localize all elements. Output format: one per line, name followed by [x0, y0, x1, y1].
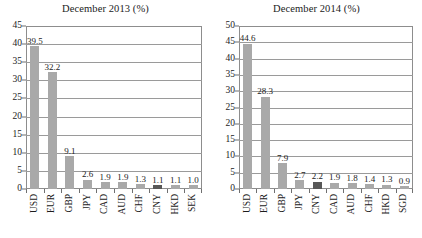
x-label-slot: SEK [184, 194, 202, 238]
x-axis-tick-mark [309, 189, 310, 193]
x-axis-tick-mark [274, 189, 275, 193]
x-axis-label-eur: EUR [48, 194, 58, 213]
x-tick-slot [149, 189, 167, 193]
x-label-slot: EUR [44, 194, 62, 238]
bar-chf: 1.3 [136, 184, 145, 189]
bar-group: 1.0 [184, 26, 202, 189]
x-axis-tick-mark [343, 189, 344, 193]
bar-aud: 1.8 [348, 183, 357, 189]
bar-usd: 44.6 [243, 44, 252, 189]
x-axis-tick-mark [96, 189, 97, 193]
x-axis-label-chf: CHF [136, 194, 146, 212]
x-axis-label-hkd: HKD [171, 194, 181, 215]
x-tick-slot [44, 189, 62, 193]
x-tick-slot [96, 189, 114, 193]
x-axis-tick-mark [256, 189, 257, 193]
y-axis-tick-label: 35 [13, 57, 23, 67]
x-label-slot: EUR [256, 194, 273, 238]
x-axis-tick-mark [167, 189, 168, 193]
x-label-slot: JPY [79, 194, 97, 238]
x-axis-label-usd: USD [243, 194, 253, 213]
bar-chf: 1.4 [365, 184, 374, 189]
y-axis-tick-label: 45 [226, 38, 236, 48]
x-axis-labels-right: USDEURGBPJPYCNYCADAUDCHFHKDSGD [239, 194, 413, 238]
x-tick-slot [26, 189, 44, 193]
x-axis-tick-mark [239, 189, 240, 193]
x-label-slot: HKD [167, 194, 185, 238]
x-label-slot: HKD [378, 194, 395, 238]
bar-value-label: 1.8 [347, 174, 358, 183]
bar-cad: 1.9 [101, 182, 110, 189]
bar-cny: 1.1 [153, 185, 162, 189]
y-axis-tick-label: 10 [13, 148, 23, 158]
x-axis-tick-mark [396, 189, 397, 193]
x-label-slot: AUD [114, 194, 132, 238]
bar-value-label: 1.9 [100, 173, 111, 182]
chart-panel-december-2013: December 2013 (%) 051015202530354045 39.… [0, 0, 211, 238]
x-label-slot: USD [26, 194, 44, 238]
x-axis-label-jpy: JPY [83, 194, 93, 210]
chart-panel-december-2014: December 2014 (%) 05101520253035404550 4… [211, 0, 422, 238]
x-label-slot: GBP [61, 194, 79, 238]
x-label-slot: CHF [132, 194, 150, 238]
x-axis-label-aud: AUD [118, 194, 128, 215]
bar-hkd: 1.3 [382, 185, 391, 189]
bar-value-label: 44.6 [240, 34, 256, 43]
bar-cad: 1.9 [330, 183, 339, 189]
y-axis-tick-label: 40 [226, 54, 236, 64]
bar-group: 28.3 [256, 26, 273, 189]
bar-value-label: 9.1 [64, 147, 75, 156]
y-axis-tick-label: 30 [13, 76, 23, 86]
x-axis-tick-mark [184, 189, 185, 193]
bar-series-right: 44.628.37.92.72.21.91.81.41.30.9 [239, 26, 413, 189]
x-axis-label-chf: CHF [365, 194, 375, 212]
x-axis-tick-mark [201, 189, 202, 193]
x-tick-slot [167, 189, 185, 193]
x-axis-label-cny: CNY [313, 194, 323, 214]
bar-group: 1.3 [132, 26, 150, 189]
bar-group: 2.2 [309, 26, 326, 189]
x-axis-label-eur: EUR [260, 194, 270, 213]
y-axis-tick-label: 45 [13, 21, 23, 31]
x-tick-slot [79, 189, 97, 193]
bar-group: 1.8 [343, 26, 360, 189]
x-label-slot: CHF [361, 194, 378, 238]
bar-gbp: 9.1 [65, 156, 74, 189]
x-axis-tick-mark [114, 189, 115, 193]
x-tick-slot [326, 189, 343, 193]
bar-group: 0.9 [396, 26, 413, 189]
bar-sgd: 0.9 [400, 186, 409, 189]
y-axis-tick-label: 15 [13, 130, 23, 140]
bar-group: 44.6 [239, 26, 256, 189]
x-tick-slot [239, 189, 256, 193]
x-label-slot: AUD [343, 194, 360, 238]
bar-value-label: 2.7 [294, 171, 305, 180]
bar-group: 39.5 [26, 26, 44, 189]
x-axis-labels-left: USDEURGBPJPYCADAUDCHFCNYHKDSEK [26, 194, 202, 238]
x-axis-tick-mark [149, 189, 150, 193]
y-axis-tick-label: 25 [13, 94, 23, 104]
bar-group: 1.9 [114, 26, 132, 189]
x-axis-tick-mark [61, 189, 62, 193]
x-axis-label-cad: CAD [330, 194, 340, 214]
bar-value-label: 1.9 [329, 173, 340, 182]
bar-group: 2.7 [291, 26, 308, 189]
bar-sek: 1.0 [189, 185, 198, 189]
x-label-slot: CAD [96, 194, 114, 238]
bar-value-label: 39.5 [27, 37, 43, 46]
bar-value-label: 2.2 [312, 172, 323, 181]
x-axis-label-usd: USD [30, 194, 40, 213]
x-label-slot: CAD [326, 194, 343, 238]
bar-group: 1.4 [361, 26, 378, 189]
x-tick-slot [291, 189, 308, 193]
y-axis-tick-label: 15 [226, 135, 236, 145]
x-axis-ticks-right [239, 189, 413, 193]
x-axis-label-cad: CAD [100, 194, 110, 214]
plot-area-left: 051015202530354045 39.532.29.12.61.91.91… [26, 26, 202, 189]
plot-area-right: 05101520253035404550 44.628.37.92.72.21.… [239, 26, 413, 189]
x-axis-label-hkd: HKD [382, 194, 392, 215]
bar-group: 1.1 [167, 26, 185, 189]
x-label-slot: CNY [309, 194, 326, 238]
bar-value-label: 1.0 [188, 176, 199, 185]
x-axis-label-cny: CNY [153, 194, 163, 214]
